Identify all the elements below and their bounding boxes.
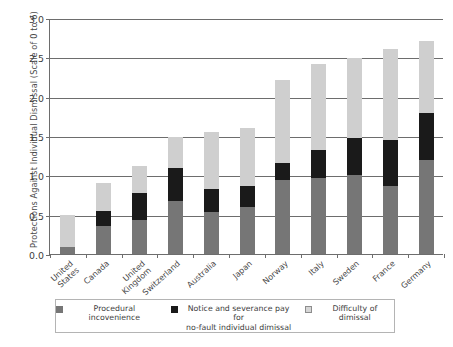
y-tick-label: 1.5 [4,132,44,143]
bar-segment-difficulty[interactable] [419,41,434,113]
legend-swatch-notice [171,306,178,313]
bar-segment-procedural[interactable] [132,220,147,254]
bar-segment-difficulty[interactable] [96,183,111,211]
bar-segment-difficulty[interactable] [60,215,75,246]
legend-swatch-procedural [56,306,63,313]
legend-item[interactable]: Procedural incovenience [56,304,162,323]
legend-label: Procedural incovenience [67,304,162,323]
bar-segment-notice[interactable] [168,168,183,201]
bar-segment-difficulty[interactable] [168,137,183,168]
bar-segment-notice[interactable] [383,140,398,186]
legend-label: Notice and severance pay for no-fault in… [182,304,296,332]
y-tick-label: 0.5 [4,211,44,222]
legend: Procedural incovenienceNotice and severa… [55,299,395,333]
y-tick-label: 2.0 [4,93,44,104]
bar-segment-difficulty[interactable] [347,58,362,137]
legend-swatch-difficulty [305,306,312,313]
bar-group[interactable] [60,18,75,254]
bar-group[interactable] [132,18,147,254]
bar-segment-procedural[interactable] [240,207,255,254]
stacked-bar-chart: Protections Against Individual Dismissal… [0,0,453,347]
bar-segment-procedural[interactable] [204,212,219,254]
bar-segment-procedural[interactable] [419,160,434,254]
bar-segment-procedural[interactable] [311,178,326,254]
bar-segment-difficulty[interactable] [240,128,255,185]
bar-group[interactable] [347,18,362,254]
bars-layer [50,19,443,254]
x-axis-category-labels: United StatesCanadaUnited KingdomSwitzer… [0,257,453,301]
bar-group[interactable] [168,18,183,254]
y-tick-label: 3.0 [4,14,44,25]
bar-segment-notice[interactable] [240,186,255,207]
y-tick-label: 1.0 [4,171,44,182]
bar-group[interactable] [240,18,255,254]
bar-segment-notice[interactable] [347,138,362,176]
bar-segment-difficulty[interactable] [383,49,398,139]
legend-label: Difficulty of dimissal [316,304,395,323]
bar-segment-notice[interactable] [419,113,434,160]
y-tick-label: 2.5 [4,53,44,64]
bar-segment-difficulty[interactable] [275,80,290,163]
legend-item[interactable]: Difficulty of dimissal [305,304,395,323]
bar-segment-procedural[interactable] [96,226,111,254]
bar-segment-procedural[interactable] [60,247,75,254]
bar-group[interactable] [419,18,434,254]
bar-segment-notice[interactable] [132,193,147,221]
bar-group[interactable] [275,18,290,254]
bar-group[interactable] [311,18,326,254]
bar-segment-difficulty[interactable] [132,166,147,193]
bar-segment-procedural[interactable] [347,175,362,254]
bar-segment-difficulty[interactable] [204,132,219,189]
bar-segment-notice[interactable] [311,150,326,178]
bar-segment-procedural[interactable] [168,201,183,254]
bar-segment-notice[interactable] [96,211,111,227]
bar-segment-procedural[interactable] [275,180,290,254]
bar-segment-notice[interactable] [204,189,219,213]
legend-item[interactable]: Notice and severance pay for no-fault in… [171,304,296,332]
bar-group[interactable] [96,18,111,254]
bar-segment-notice[interactable] [275,163,290,180]
bar-group[interactable] [204,18,219,254]
bar-group[interactable] [383,18,398,254]
bar-segment-difficulty[interactable] [311,64,326,150]
plot-area [49,19,443,255]
bar-segment-procedural[interactable] [383,186,398,254]
